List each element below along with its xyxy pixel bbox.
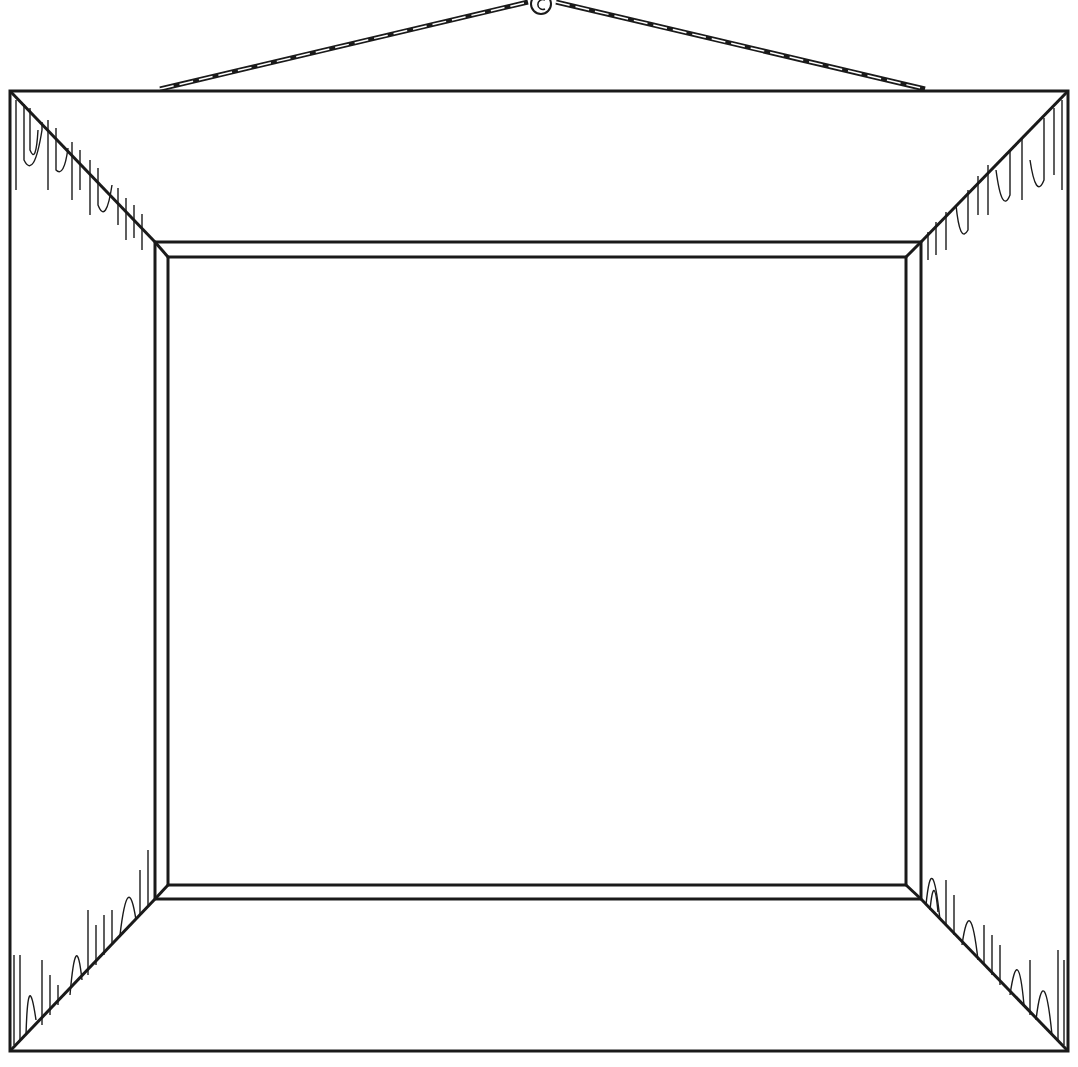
hanging-hook-icon xyxy=(531,0,551,14)
picture-frame-drawing xyxy=(0,0,1078,1067)
hanging-wire xyxy=(160,2,925,89)
wood-grain-bottom-left xyxy=(14,850,148,1045)
wood-grain-bottom-right xyxy=(926,878,1064,1045)
wood-grain-top-left xyxy=(16,100,142,250)
frame-inner-lip xyxy=(155,242,921,899)
wood-grain-top-right xyxy=(928,100,1062,260)
